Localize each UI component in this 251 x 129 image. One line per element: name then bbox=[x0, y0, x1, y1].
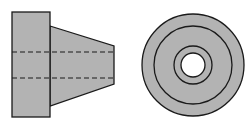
tapered-section bbox=[50, 26, 114, 106]
flange-section bbox=[12, 12, 50, 117]
side-view bbox=[12, 12, 114, 117]
end-view bbox=[142, 14, 244, 116]
bore-hole bbox=[181, 53, 205, 77]
orthographic-drawing bbox=[0, 0, 251, 129]
